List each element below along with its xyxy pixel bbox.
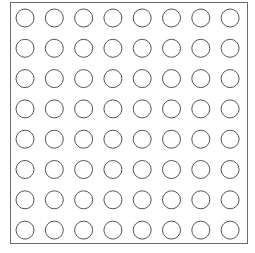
grid-circle bbox=[133, 130, 151, 148]
grid-circle bbox=[45, 221, 63, 239]
grid-circle bbox=[163, 70, 181, 88]
grid-circle bbox=[133, 100, 151, 118]
grid-circle bbox=[104, 221, 122, 239]
grid-circle bbox=[163, 161, 181, 179]
grid-circle bbox=[133, 9, 151, 27]
grid-circle bbox=[192, 161, 210, 179]
grid-circle bbox=[192, 70, 210, 88]
grid-circle bbox=[163, 191, 181, 209]
grid-circle bbox=[16, 70, 34, 88]
grid-circle bbox=[221, 39, 239, 57]
grid-circle bbox=[221, 9, 239, 27]
circle-grid bbox=[0, 0, 255, 253]
grid-circle bbox=[192, 221, 210, 239]
grid-circle bbox=[45, 70, 63, 88]
grid-circle bbox=[133, 70, 151, 88]
grid-circle bbox=[45, 191, 63, 209]
grid-circle bbox=[104, 130, 122, 148]
grid-circle bbox=[163, 221, 181, 239]
grid-circle bbox=[75, 221, 93, 239]
grid-circle bbox=[45, 9, 63, 27]
grid-circle bbox=[45, 39, 63, 57]
grid-circle bbox=[75, 161, 93, 179]
grid-circle bbox=[16, 161, 34, 179]
grid-circle bbox=[45, 161, 63, 179]
grid-circle bbox=[163, 100, 181, 118]
grid-circle bbox=[75, 70, 93, 88]
grid-circle bbox=[192, 191, 210, 209]
grid-circle bbox=[192, 39, 210, 57]
grid-circle bbox=[221, 130, 239, 148]
grid-circle bbox=[16, 9, 34, 27]
grid-circle bbox=[163, 9, 181, 27]
grid-circle bbox=[104, 70, 122, 88]
grid-circle bbox=[16, 39, 34, 57]
grid-circle bbox=[192, 9, 210, 27]
grid-circle bbox=[221, 161, 239, 179]
grid-circle bbox=[104, 100, 122, 118]
grid-circle bbox=[163, 39, 181, 57]
grid-circle bbox=[133, 39, 151, 57]
grid-circle bbox=[133, 221, 151, 239]
grid-circle bbox=[221, 100, 239, 118]
grid-circle bbox=[221, 191, 239, 209]
grid-circle bbox=[45, 130, 63, 148]
grid-circle bbox=[75, 100, 93, 118]
grid-circle bbox=[192, 130, 210, 148]
grid-circle bbox=[16, 191, 34, 209]
grid-circle bbox=[75, 191, 93, 209]
grid-circle bbox=[16, 130, 34, 148]
grid-circle bbox=[104, 39, 122, 57]
grid-circle bbox=[221, 221, 239, 239]
grid-circle bbox=[45, 100, 63, 118]
grid-circle bbox=[16, 100, 34, 118]
grid-circle bbox=[133, 161, 151, 179]
grid-circle bbox=[104, 191, 122, 209]
grid-circle bbox=[75, 9, 93, 27]
grid-circle bbox=[16, 221, 34, 239]
grid-circle bbox=[75, 130, 93, 148]
grid-circle bbox=[192, 100, 210, 118]
grid-circle bbox=[104, 9, 122, 27]
grid-circle bbox=[221, 70, 239, 88]
grid-circle bbox=[104, 161, 122, 179]
grid-circle bbox=[163, 130, 181, 148]
grid-circle bbox=[75, 39, 93, 57]
grid-circle bbox=[133, 191, 151, 209]
